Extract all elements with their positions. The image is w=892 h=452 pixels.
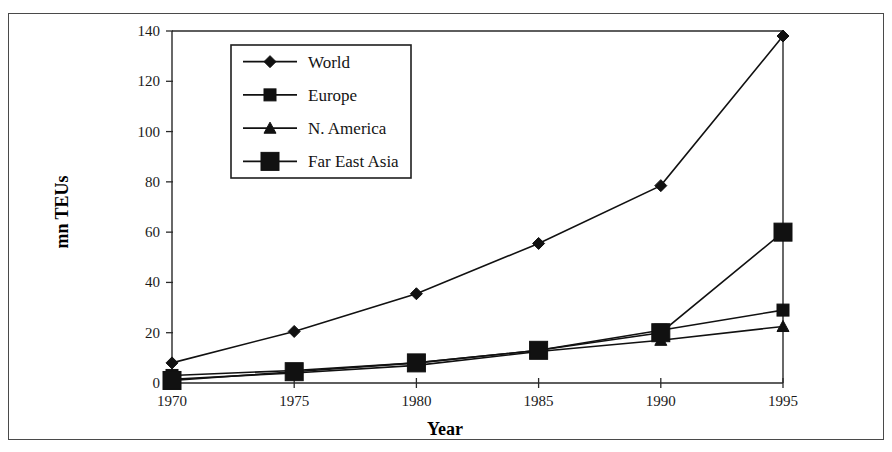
data-point-far-east-asia <box>774 223 792 241</box>
x-axis-tick-label: 1980 <box>401 393 431 409</box>
series-line-europe <box>172 310 783 375</box>
y-axis-tick-label: 40 <box>145 274 160 290</box>
y-axis-tick-label: 120 <box>138 73 161 89</box>
data-point-n-america <box>777 320 789 331</box>
chart-legend: WorldEuropeN. AmericaFar East Asia <box>231 45 411 178</box>
y-axis-tick-label-group: 020406080100120140 <box>138 23 161 391</box>
x-axis-tick-label: 1985 <box>524 393 554 409</box>
x-axis-tick-label: 1995 <box>768 393 798 409</box>
y-axis-tick-label: 140 <box>138 23 161 39</box>
legend-marker-europe <box>264 89 276 101</box>
legend-label-world: World <box>308 53 351 72</box>
legend-label-n-america: N. America <box>308 119 387 138</box>
x-axis-tick-label: 1990 <box>646 393 676 409</box>
legend-label-far-east-asia: Far East Asia <box>308 152 399 171</box>
data-point-far-east-asia <box>530 341 548 359</box>
data-point-world <box>533 237 545 249</box>
data-point-far-east-asia <box>652 324 670 342</box>
x-axis-tick-label: 1970 <box>157 393 187 409</box>
y-axis-title: mn TEUs <box>52 175 72 248</box>
x-axis-tick-label: 1975 <box>279 393 309 409</box>
chart-page: 020406080100120140 197019751980198519901… <box>0 0 892 452</box>
data-point-far-east-asia <box>407 354 425 372</box>
x-axis-title: Year <box>427 419 463 439</box>
legend-label-europe: Europe <box>308 86 357 105</box>
y-axis-tick-label: 20 <box>145 325 160 341</box>
data-point-europe <box>777 304 789 316</box>
y-axis-tick-label: 60 <box>145 224 160 240</box>
line-chart: 020406080100120140 197019751980198519901… <box>0 0 892 452</box>
data-point-far-east-asia <box>285 363 303 381</box>
y-axis-tick-label: 0 <box>153 375 161 391</box>
y-axis-tick-label: 80 <box>145 174 160 190</box>
data-point-world <box>288 325 300 337</box>
y-axis-tick-label: 100 <box>138 124 161 140</box>
data-point-world <box>166 357 178 369</box>
data-point-world <box>410 288 422 300</box>
data-point-far-east-asia <box>163 371 181 389</box>
x-axis-tick-label-group: 197019751980198519901995 <box>157 393 798 409</box>
legend-marker-far-east-asia <box>261 152 279 170</box>
